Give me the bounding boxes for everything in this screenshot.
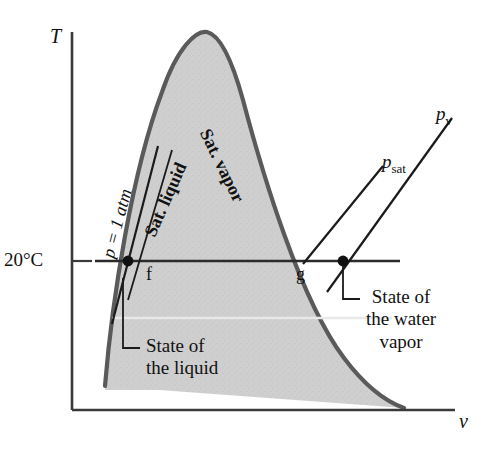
p-sat-subscript: sat <box>392 161 406 176</box>
p-v-subscript: v <box>446 113 453 128</box>
p-v-label: pv <box>436 104 452 127</box>
x-axis-label: v <box>459 411 468 432</box>
phase-diagram-figure: T v 20°C Sat. liquid Sat. vapor p = 1 at… <box>0 0 486 459</box>
p-sat-symbol: p <box>382 151 392 172</box>
state-point-vapor-dot <box>338 256 349 267</box>
liquid-callout-line-1: State of <box>146 335 218 357</box>
y-axis-label: T <box>50 26 61 47</box>
state-point-liquid-dot <box>123 256 134 267</box>
vapor-callout-leader <box>343 266 360 299</box>
p-sat-label: psat <box>382 152 406 175</box>
vapor-callout-line-1: State of <box>366 286 436 308</box>
vapor-callout-line-2: the water <box>366 308 436 330</box>
p-v-symbol: p <box>436 103 446 124</box>
point-g-label: g <box>296 265 305 284</box>
liquid-state-callout: State of the liquid <box>146 335 218 380</box>
liquid-callout-line-2: the liquid <box>146 357 218 379</box>
p-v-line <box>327 118 452 292</box>
p-sat-line <box>303 166 383 264</box>
vapor-callout-line-3: vapor <box>366 331 436 353</box>
vapor-state-callout: State of the water vapor <box>366 286 436 353</box>
temperature-tick-label: 20°C <box>4 250 43 270</box>
point-f-label: f <box>146 265 152 284</box>
diagram-canvas <box>0 0 486 459</box>
